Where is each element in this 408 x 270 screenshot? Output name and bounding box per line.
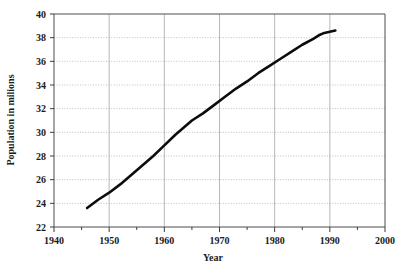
y-axis-ticks bbox=[50, 14, 54, 227]
y-tick-label-38: 38 bbox=[36, 32, 46, 43]
x-tick-label-1980: 1980 bbox=[265, 235, 285, 246]
y-axis-title: Population in milions bbox=[5, 74, 16, 165]
population-series-line bbox=[87, 31, 335, 209]
x-tick-label-1950: 1950 bbox=[99, 235, 119, 246]
x-tick-label-1960: 1960 bbox=[154, 235, 174, 246]
y-tick-label-30: 30 bbox=[36, 127, 46, 138]
y-tick-label-32: 32 bbox=[36, 103, 46, 114]
y-tick-label-40: 40 bbox=[36, 9, 46, 20]
y-axis-tick-labels: 22242628303234363840 bbox=[36, 9, 46, 233]
y-tick-label-24: 24 bbox=[36, 198, 46, 209]
x-tick-label-1990: 1990 bbox=[320, 235, 340, 246]
y-tick-label-22: 22 bbox=[36, 222, 46, 233]
vertical-gridlines bbox=[109, 14, 330, 227]
y-tick-label-34: 34 bbox=[36, 80, 46, 91]
population-line-chart: 22242628303234363840 1940195019601970198… bbox=[0, 0, 408, 270]
x-tick-label-2000: 2000 bbox=[375, 235, 395, 246]
y-tick-label-26: 26 bbox=[36, 174, 46, 185]
y-tick-label-28: 28 bbox=[36, 151, 46, 162]
x-tick-label-1970: 1970 bbox=[210, 235, 230, 246]
chart-canvas: 22242628303234363840 1940195019601970198… bbox=[0, 0, 408, 270]
x-tick-label-1940: 1940 bbox=[44, 235, 64, 246]
y-tick-label-36: 36 bbox=[36, 56, 46, 67]
x-axis-ticks bbox=[54, 227, 385, 232]
x-axis-title: Year bbox=[203, 252, 224, 263]
x-axis-tick-labels: 1940195019601970198019902000 bbox=[44, 235, 395, 246]
